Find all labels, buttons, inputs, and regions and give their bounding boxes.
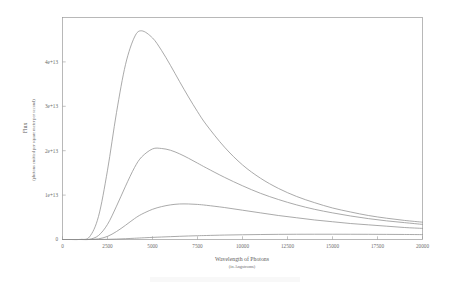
x-tick-label: 20000	[416, 243, 429, 249]
blackbody-flux-figure: 02500500075001000012500150001750020000 0…	[0, 0, 450, 286]
x-tick-label: 7500	[192, 243, 203, 249]
x-tick-label: 0	[61, 243, 64, 249]
x-axis-subtitle: (in Angstroms)	[229, 264, 256, 269]
y-axis-title: Flux	[22, 123, 28, 134]
y-tick-label: 1e+13	[45, 192, 58, 198]
x-tick-label: 15000	[326, 243, 339, 249]
y-axis-subtitle: (photons emitted per square meter per se…	[31, 99, 36, 181]
y-tick-label: 0	[55, 236, 58, 242]
x-tick-label: 10000	[236, 243, 249, 249]
x-tick-label: 17500	[371, 243, 384, 249]
x-tick-label: 5000	[147, 243, 158, 249]
y-tick-label: 2e+13	[45, 148, 58, 154]
x-tick-label: 2500	[102, 243, 113, 249]
page-edge-artifact	[150, 277, 300, 282]
x-tick-label: 12500	[281, 243, 294, 249]
y-tick-label: 4e+13	[45, 59, 58, 65]
y-tick-label: 3e+13	[45, 103, 58, 109]
x-axis-title: Wavelength of Photons	[215, 256, 270, 262]
plot-canvas: 02500500075001000012500150001750020000 0…	[0, 0, 450, 286]
